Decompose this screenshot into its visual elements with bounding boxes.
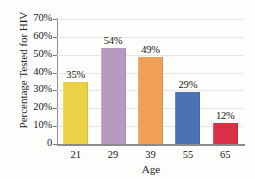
x-axis-tick-label: 65 bbox=[208, 149, 242, 160]
y-axis-tick-label: 0 bbox=[4, 137, 52, 148]
y-axis-tick-label: 50% bbox=[4, 48, 52, 59]
bar-rect[interactable] bbox=[63, 82, 88, 145]
y-axis-tick-mark bbox=[53, 126, 57, 127]
bar[interactable]: 54% bbox=[101, 19, 126, 144]
bar-value-label: 49% bbox=[141, 44, 160, 55]
y-axis-tick-mark bbox=[53, 90, 57, 91]
bar-value-label: 29% bbox=[179, 79, 198, 90]
y-axis-tick-mark bbox=[53, 73, 57, 74]
plot-area: 35%54%49%29%12% bbox=[57, 19, 244, 144]
y-axis-tick-mark bbox=[53, 19, 57, 20]
bar[interactable]: 12% bbox=[213, 19, 238, 144]
y-axis-tick-mark bbox=[53, 144, 57, 145]
bar-rect[interactable] bbox=[175, 92, 200, 144]
y-axis-tick-label: 40% bbox=[4, 66, 52, 77]
bar-rect[interactable] bbox=[138, 57, 163, 145]
bar[interactable]: 35% bbox=[63, 19, 88, 144]
bar-value-label: 35% bbox=[66, 69, 85, 80]
bar-value-label: 54% bbox=[104, 35, 123, 46]
x-axis-tick-label: 39 bbox=[134, 149, 168, 160]
y-axis-tick-label: 20% bbox=[4, 101, 52, 112]
bar-rect[interactable] bbox=[213, 123, 238, 144]
x-axis-line bbox=[57, 144, 245, 146]
x-axis-title: Age bbox=[57, 163, 245, 175]
bar-chart-figure: Percentage Tested for HIV 010%20%30%40%5… bbox=[0, 0, 255, 179]
y-axis-tick-label: 10% bbox=[4, 119, 52, 130]
y-axis-tick-label: 30% bbox=[4, 83, 52, 94]
bar-value-label: 12% bbox=[216, 110, 235, 121]
x-axis-tick-label: 55 bbox=[171, 149, 205, 160]
x-axis-tick-label: 21 bbox=[59, 149, 93, 160]
y-axis-tick-mark bbox=[53, 55, 57, 56]
y-axis-tick-label: 70% bbox=[4, 12, 52, 23]
chart-title-cropped bbox=[70, 0, 240, 4]
y-axis-tick-mark bbox=[53, 37, 57, 38]
bar-rect[interactable] bbox=[101, 48, 126, 144]
y-axis-tick-mark bbox=[53, 108, 57, 109]
bar[interactable]: 49% bbox=[138, 19, 163, 144]
x-axis-tick-label: 29 bbox=[96, 149, 130, 160]
bar[interactable]: 29% bbox=[175, 19, 200, 144]
y-axis-tick-labels: 010%20%30%40%50%60%70% bbox=[0, 0, 52, 179]
y-axis-tick-label: 60% bbox=[4, 30, 52, 41]
